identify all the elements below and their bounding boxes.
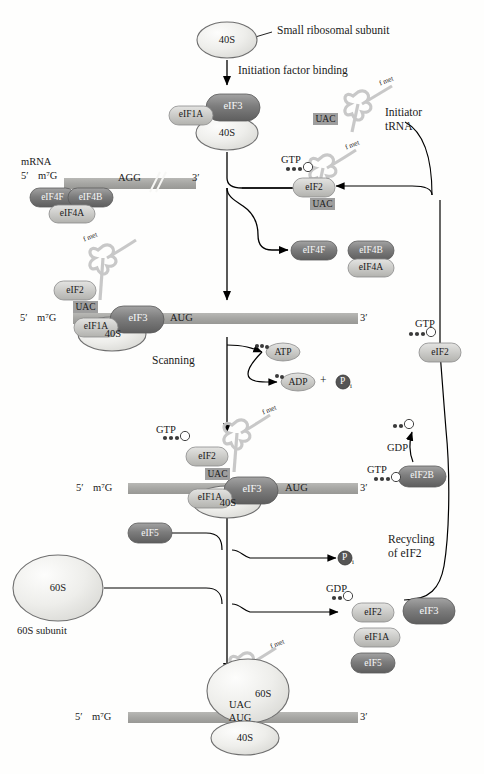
label-eif2-43s: eIF2: [56, 285, 94, 296]
label-gtp-recycled: GTP: [415, 318, 435, 330]
label-pi-release: P: [342, 552, 347, 563]
label-gtp-ternary: GTP: [281, 154, 301, 166]
label-cap-80s: m⁷G: [92, 711, 111, 723]
label-eif4f-mrna: eIF4F: [31, 192, 74, 203]
label-anticodon-43s: UAC: [75, 302, 96, 313]
label-eif4a-released: eIF4A: [349, 262, 393, 273]
label-eif2-48s: eIF2: [188, 451, 226, 462]
label-gdp-exchange: GDP: [387, 442, 408, 454]
label-start-codon-top: AGG: [118, 172, 141, 184]
diagram-canvas: Small ribosomal subunit 40S Initiation f…: [0, 0, 484, 774]
label-40s-43s: 40S: [88, 328, 138, 340]
label-three-prime-top: 3′: [192, 172, 200, 184]
label-eif1a-released: eIF1A: [356, 632, 398, 643]
trna-48s: [224, 415, 270, 472]
label-eif4b-mrna: eIF4B: [69, 192, 112, 203]
label-60s-subunit-caption: 60S subunit: [17, 625, 67, 637]
label-initiator-trna-1: Initiator: [385, 106, 422, 119]
label-initiator-trna-2: tRNA: [385, 120, 412, 133]
label-anticodon-ternary: UAC: [312, 199, 333, 210]
label-pi-scan: P: [340, 376, 345, 387]
label-eif1a-complex: eIF1A: [171, 109, 211, 120]
label-eif2b: eIF2B: [400, 470, 444, 481]
label-three-prime-48s: 3′: [360, 482, 368, 494]
label-eif4f-released: eIF4F: [292, 245, 336, 256]
trna-43s: [90, 240, 136, 300]
label-anticodon-80s: UAC: [220, 699, 260, 711]
label-gtp-48s: GTP: [156, 424, 176, 436]
label-eif2-recycled: eIF2: [421, 347, 459, 358]
label-eif2-ternary: eIF2: [295, 182, 333, 193]
label-recycling-2: of eIF2: [388, 547, 422, 560]
label-recycling-1: Recycling: [388, 533, 435, 546]
label-eif3-43s: eIF3: [113, 312, 163, 324]
label-eif2-released: eIF2: [354, 607, 392, 618]
label-five-prime-48s: 5′: [76, 482, 84, 494]
label-eif4b-released: eIF4B: [349, 245, 393, 256]
label-eif3-48s: eIF3: [227, 483, 277, 495]
label-start-codon-48s: AUG: [285, 482, 308, 494]
label-mrna: mRNA: [21, 156, 51, 168]
label-five-prime-top: 5′: [21, 170, 29, 182]
label-three-prime-80s: 3′: [360, 711, 368, 723]
label-start-codon-80s: AUG: [220, 712, 260, 724]
label-scanning: Scanning: [152, 354, 195, 367]
label-five-prime-43s: 5′: [20, 312, 28, 324]
label-start-codon-43s: AUG: [170, 312, 193, 324]
label-eif3-released-2: eIF3: [405, 605, 453, 617]
label-cap-top: m⁷G: [38, 170, 57, 182]
label-eif4a-mrna: eIF4A: [50, 208, 94, 219]
label-40s-complex: 40S: [202, 127, 252, 139]
label-eif3-complex: eIF3: [208, 100, 258, 112]
label-cap-43s: m⁷G: [37, 312, 56, 324]
label-gtp-exchange: GTP: [367, 464, 387, 476]
label-pi-sub-release: i: [352, 558, 354, 566]
label-anticodon-48s: UAC: [207, 469, 228, 480]
label-40s-free: 40S: [180, 34, 274, 46]
label-eif5-input: eIF5: [129, 528, 171, 539]
label-eif5-released: eIF5: [352, 658, 394, 669]
label-adp: ADP: [283, 377, 313, 388]
label-cap-48s: m⁷G: [93, 482, 112, 494]
label-initiation-factor-binding: Initiation factor binding: [238, 64, 348, 77]
label-60s-free: 60S: [33, 582, 83, 594]
label-anticodon-free-trna: UAC: [315, 114, 336, 125]
label-plus: +: [320, 374, 327, 387]
label-40s-80s: 40S: [220, 732, 270, 744]
label-pi-sub-scan: i: [350, 382, 352, 390]
label-three-prime-43s: 3′: [360, 312, 368, 324]
label-atp: ATP: [268, 347, 298, 358]
label-five-prime-80s: 5′: [75, 711, 83, 723]
label-gdp-released: GDP: [326, 583, 347, 595]
label-small-ribosomal-subunit: Small ribosomal subunit: [277, 24, 389, 37]
label-40s-48s: 40S: [203, 497, 253, 509]
